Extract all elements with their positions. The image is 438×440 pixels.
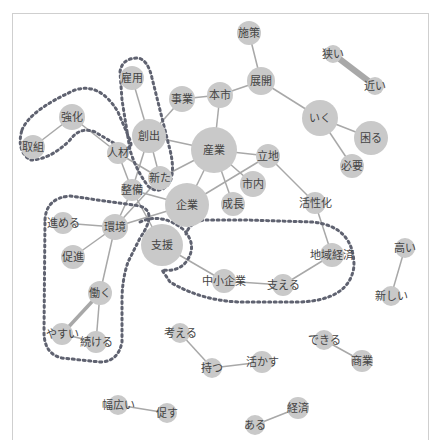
- node-label: 施策: [238, 26, 260, 40]
- node-label: 近い: [364, 80, 386, 93]
- node-layer: 施策展開本市事業雇用強化取組人材創出産業立地市内成長企業新た整備環境進める促進支…: [21, 21, 416, 435]
- node-label: 強化: [61, 110, 83, 124]
- node-hitsuyou: 必要: [340, 154, 364, 178]
- node-label: 促進: [62, 250, 84, 264]
- node-label: 創出: [138, 129, 160, 143]
- node-label: 新しい: [375, 289, 408, 303]
- node-label: 考える: [164, 327, 197, 340]
- node-honshi: 本市: [207, 82, 233, 108]
- node-shougyou: 商業: [351, 350, 373, 372]
- node-label: 支える: [267, 279, 300, 292]
- node-ritchi: 立地: [256, 144, 280, 168]
- node-label: 整備: [121, 183, 143, 197]
- node-label: 必要: [341, 160, 363, 173]
- node-jinzai: 人材: [107, 142, 129, 164]
- node-label: 環境: [104, 220, 126, 234]
- node-shien: 支援: [141, 224, 183, 266]
- node-yasui: やすい: [46, 323, 79, 345]
- node-kigyou: 企業: [165, 183, 209, 227]
- frame-border-right: [428, 13, 429, 440]
- node-koyou: 雇用: [120, 66, 144, 90]
- node-susumeru: 進める: [47, 212, 80, 234]
- node-habahiroi: 幅広い: [102, 395, 135, 415]
- node-label: 支援: [151, 238, 173, 252]
- node-label: 企業: [176, 198, 198, 212]
- node-label: ある: [244, 419, 266, 432]
- node-label: 事業: [171, 93, 193, 106]
- frame-border-left: [12, 13, 13, 440]
- node-label: 活かす: [246, 356, 279, 369]
- node-label: 中小企業: [202, 274, 246, 288]
- node-label: 雇用: [121, 71, 143, 85]
- node-label: 新た: [149, 171, 171, 185]
- node-label: できる: [308, 334, 341, 347]
- node-sokushin: 促進: [61, 245, 85, 269]
- node-kasseika: 活性化: [299, 192, 332, 214]
- node-label: 市内: [242, 177, 264, 191]
- node-unagasu: 促す: [156, 403, 178, 423]
- node-label: 地域経済: [310, 248, 354, 262]
- node-label: 促す: [156, 406, 178, 420]
- node-label: 本市: [209, 88, 231, 102]
- node-label: 続ける: [80, 335, 113, 349]
- node-label: やすい: [46, 328, 79, 341]
- node-label: 立地: [257, 149, 279, 163]
- node-label: 困る: [360, 132, 382, 145]
- node-torikumi: 取組: [21, 135, 45, 159]
- node-komaru: 困る: [354, 121, 388, 155]
- node-ikasu: 活かす: [246, 351, 279, 373]
- node-label: 成長: [222, 198, 244, 211]
- node-label: 幅広い: [102, 399, 135, 412]
- node-label: 狭い: [322, 48, 344, 61]
- node-kangaeru: 考える: [164, 323, 197, 343]
- node-sangyou: 産業: [191, 127, 237, 173]
- node-label: 産業: [203, 144, 225, 157]
- node-arata: 新た: [148, 166, 172, 190]
- node-label: 取組: [22, 141, 44, 154]
- node-soushutsu: 創出: [132, 119, 166, 153]
- node-shinai: 市内: [240, 171, 266, 197]
- node-atarashii: 新しい: [375, 286, 408, 306]
- node-semai: 狭い: [322, 45, 344, 63]
- node-keizai: 経済: [287, 397, 309, 419]
- node-hataraku: 働く: [88, 281, 112, 305]
- network-canvas: 施策展開本市事業雇用強化取組人材創出産業立地市内成長企業新た整備環境進める促進支…: [0, 0, 438, 440]
- frame-border-top: [12, 13, 428, 14]
- node-seibi: 整備: [121, 179, 143, 201]
- node-label: 人材: [107, 146, 129, 160]
- node-motsu: 持つ: [201, 358, 223, 378]
- node-takai: 高い: [394, 238, 416, 258]
- node-chikai: 近い: [364, 77, 386, 95]
- node-label: いく: [309, 112, 331, 125]
- node-seichou: 成長: [221, 192, 245, 216]
- node-label: 商業: [351, 354, 373, 368]
- node-tsuzukeru: 続ける: [80, 331, 113, 353]
- node-label: 持つ: [201, 361, 223, 375]
- node-iku: いく: [302, 100, 338, 136]
- node-shisaku: 施策: [237, 21, 261, 45]
- node-label: 高い: [394, 241, 416, 255]
- node-jigyou: 事業: [169, 86, 195, 112]
- node-chiiki: 地域経済: [310, 243, 354, 267]
- network-diagram: 施策展開本市事業雇用強化取組人材創出産業立地市内成長企業新た整備環境進める促進支…: [0, 0, 438, 440]
- node-aru: ある: [244, 415, 266, 435]
- node-kyouka: 強化: [59, 104, 85, 130]
- node-label: 活性化: [299, 196, 332, 210]
- node-tenkai: 展開: [247, 67, 275, 95]
- node-label: 働く: [89, 287, 111, 300]
- node-label: 進める: [47, 217, 80, 230]
- node-label: 経済: [287, 401, 309, 415]
- node-label: 展開: [250, 75, 272, 88]
- node-kankyou: 環境: [102, 214, 128, 240]
